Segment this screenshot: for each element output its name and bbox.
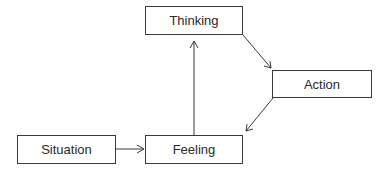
node-feeling: Feeling xyxy=(145,135,243,164)
node-feeling-label: Feeling xyxy=(173,142,216,157)
node-thinking: Thinking xyxy=(145,6,243,35)
node-action: Action xyxy=(272,70,372,98)
edge-situation-to-feeling xyxy=(116,145,144,153)
edge-action-to-feeling xyxy=(246,98,273,131)
node-situation: Situation xyxy=(17,135,116,164)
node-situation-label: Situation xyxy=(41,142,92,157)
node-thinking-label: Thinking xyxy=(169,13,218,28)
node-action-label: Action xyxy=(304,77,340,92)
edge-thinking-to-action xyxy=(243,35,271,68)
edge-feeling-to-thinking xyxy=(190,41,198,135)
